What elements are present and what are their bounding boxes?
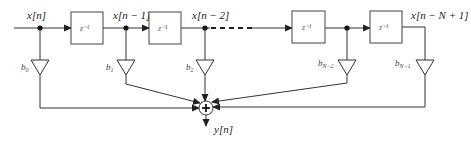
coef-bN-2: bN−2 bbox=[318, 58, 334, 69]
tap-label-x-n-1: x[n − 1] bbox=[112, 9, 150, 21]
path-b1-to-adder bbox=[126, 75, 200, 103]
coef-b2: b2 bbox=[186, 62, 194, 73]
adder-icon bbox=[199, 101, 213, 115]
coef-b1: b1 bbox=[106, 62, 114, 73]
tap-label-x-n-2: x[n − 2] bbox=[191, 9, 229, 21]
coef-bN-1: bN−1 bbox=[395, 58, 411, 69]
gain-b1-icon bbox=[117, 60, 135, 75]
delay-label-1: z⁻¹ bbox=[79, 24, 90, 33]
gain-bN-2-icon bbox=[338, 60, 356, 75]
delay-label-3: z⁻¹ bbox=[301, 23, 312, 32]
output-label: y[n] bbox=[213, 123, 233, 135]
gain-b0-icon bbox=[31, 60, 49, 75]
gain-bN-1-icon bbox=[416, 60, 434, 75]
delay-label-2: z⁻¹ bbox=[157, 24, 168, 33]
path-bN-1-to-adder bbox=[213, 75, 425, 107]
tap-label-x-n-N-1: x[n − N + 1] bbox=[410, 9, 469, 21]
input-label: x[n] bbox=[26, 9, 46, 21]
coef-b0: b0 bbox=[21, 62, 29, 73]
gain-b2-icon bbox=[196, 60, 214, 75]
path-b0-to-adder bbox=[40, 75, 199, 108]
fir-filter-diagram: x[n] z⁻¹ x[n − 1] z⁻¹ x[n − 2] z⁻¹ z⁻¹ x… bbox=[0, 0, 471, 144]
path-bN-2-to-adder bbox=[212, 75, 347, 102]
delay-label-4: z⁻¹ bbox=[378, 23, 389, 32]
